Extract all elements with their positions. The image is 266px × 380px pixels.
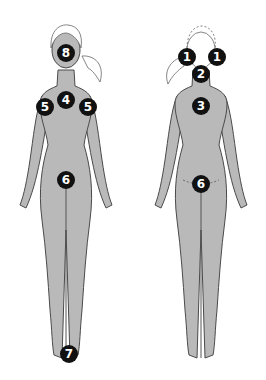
front-figure bbox=[20, 25, 112, 358]
front-marker-4-chest: 4 bbox=[57, 91, 75, 109]
body-figures bbox=[0, 0, 266, 380]
front-marker-8-face: 8 bbox=[57, 44, 75, 62]
front-marker-7-feet: 7 bbox=[60, 345, 78, 363]
back-marker-1-right-head: 1 bbox=[208, 48, 226, 66]
front-marker-5-left-breast: 5 bbox=[36, 98, 54, 116]
back-marker-6-lower-back: 6 bbox=[192, 175, 210, 193]
front-marker-5-right-breast: 5 bbox=[79, 98, 97, 116]
front-marker-6-pelvis: 6 bbox=[57, 171, 75, 189]
back-marker-1-left-head: 1 bbox=[178, 48, 196, 66]
back-marker-3-upper-back: 3 bbox=[192, 97, 210, 115]
back-marker-2-neck: 2 bbox=[192, 65, 210, 83]
